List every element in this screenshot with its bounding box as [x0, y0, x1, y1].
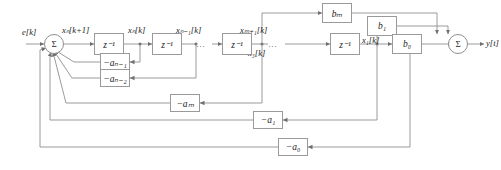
label-output-signal: y[t] — [486, 38, 499, 48]
gain-block-neg-am[interactable]: −aₘ — [170, 94, 200, 112]
gain-block-b0[interactable]: b₀ — [392, 34, 422, 54]
label-state-n: xₙ[k] — [128, 25, 145, 35]
gain-block-neg-a1[interactable]: −a₁ — [253, 111, 283, 129]
delay-block-1[interactable]: z⁻¹ — [94, 33, 124, 55]
ellipsis-mid: … — [196, 39, 206, 49]
gain-block-b1[interactable]: b₁ — [367, 16, 397, 36]
ellipsis-right: … — [268, 39, 278, 49]
input-summing-junction[interactable]: Σ — [44, 34, 64, 54]
gain-block-neg-a-n-2[interactable]: −aₙ₋₂ — [100, 69, 130, 87]
label-input-signal: e[k] — [22, 27, 36, 37]
output-summing-junction[interactable]: Σ — [448, 34, 468, 54]
gain-block-neg-a0[interactable]: −a₀ — [278, 138, 308, 156]
delay-block-2[interactable]: z⁻¹ — [152, 33, 182, 55]
diagram-canvas: e[k] xₙ[k+1] xₙ[k] xₙ₋₁[k] xₘ₊₁[k] x₃[k]… — [0, 0, 501, 170]
label-state-1: x₁[k] — [362, 35, 379, 45]
label-state-next: xₙ[k+1] — [62, 25, 89, 35]
delay-block-4[interactable]: z⁻¹ — [330, 33, 360, 55]
gain-block-bm[interactable]: bₘ — [322, 3, 352, 23]
delay-block-3[interactable]: z⁻¹ — [222, 33, 252, 55]
